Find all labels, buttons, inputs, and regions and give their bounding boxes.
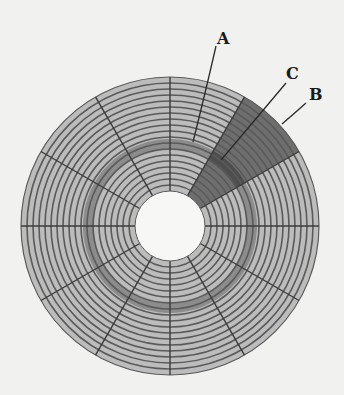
label-c-track-sector: C bbox=[286, 66, 299, 82]
spindle-hole bbox=[135, 191, 205, 261]
leader-line-b bbox=[282, 103, 306, 124]
disk-surface-graphic bbox=[0, 0, 344, 395]
disk-diagram: A B C bbox=[0, 0, 344, 395]
label-a-track: A bbox=[217, 31, 229, 47]
label-b-sector: B bbox=[309, 87, 323, 103]
